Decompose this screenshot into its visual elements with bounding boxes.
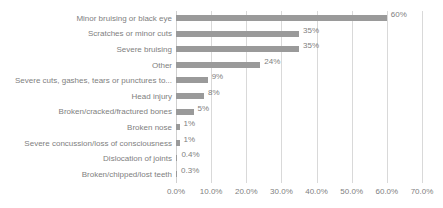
category-label: Broken/cracked/fractured bones [59,108,172,116]
category-label: Minor bruising or black eye [76,15,172,23]
value-axis-labels: 0.0%10.0%20.0%30.0%40.0%50.0%60.0%70.0% [176,187,422,201]
category-axis-labels: Minor bruising or black eyeScratches or … [0,11,172,183]
bar-row: 1% [176,120,422,136]
category-label-row: Dislocation of joints [0,151,172,167]
bar-row: 5% [176,105,422,121]
category-label-row: Broken/chipped/lost teeth [0,167,172,183]
bar-row: 1% [176,136,422,152]
category-label-row: Minor bruising or black eye [0,11,172,27]
x-axis-tick-label: 10.0% [200,187,223,196]
bar [176,109,194,115]
category-label: Severe concussion/loss of consciousness [24,140,172,148]
category-label: Dislocation of joints [103,155,172,163]
bar-value-label: 1% [184,119,196,128]
x-axis-tick-label: 60.0% [376,187,399,196]
bar-value-label: 35% [303,26,319,35]
bar [176,171,177,177]
bar-rows: 60%35%35%24%9%8%5%1%1%0.4%0.3% [176,11,422,183]
category-label-row: Other [0,58,172,74]
bar-value-label: 1% [184,135,196,144]
category-label-row: Severe concussion/loss of consciousness [0,136,172,152]
category-label: Broken/chipped/lost teeth [82,171,172,179]
category-label: Head injury [132,93,172,101]
bar-value-label: 9% [212,72,224,81]
category-label-row: Head injury [0,89,172,105]
bar-row: 35% [176,27,422,43]
x-axis-tick-label: 50.0% [340,187,363,196]
bar-value-label: 35% [303,41,319,50]
bar-value-label: 5% [198,104,210,113]
category-label-row: Broken nose [0,120,172,136]
bar-value-label: 0.3% [181,166,199,175]
bar-row: 8% [176,89,422,105]
bar-row: 0.4% [176,151,422,167]
bar-row: 0.3% [176,167,422,183]
category-label: Other [152,62,172,70]
category-label-row: Severe bruising [0,42,172,58]
bar [176,124,180,130]
bar [176,31,299,37]
category-label-row: Scratches or minor cuts [0,27,172,43]
x-axis-tick-label: 0.0% [167,187,185,196]
category-label-row: Broken/cracked/fractured bones [0,105,172,121]
bar-chart: Minor bruising or black eyeScratches or … [0,0,443,208]
x-axis-tick-label: 40.0% [305,187,328,196]
category-label: Severe bruising [116,46,172,54]
bar-row: 9% [176,73,422,89]
bar [176,77,208,83]
plot-area: 60%35%35%24%9%8%5%1%1%0.4%0.3% [176,11,422,183]
bar-value-label: 24% [264,57,280,66]
bar [176,46,299,52]
bar [176,15,387,21]
bar-value-label: 0.4% [181,150,199,159]
category-label: Broken nose [127,124,172,132]
category-label: Severe cuts, gashes, tears or punctures … [15,77,172,85]
bar [176,155,177,161]
bar-row: 60% [176,11,422,27]
bar [176,93,204,99]
category-label-row: Severe cuts, gashes, tears or punctures … [0,73,172,89]
bar-row: 35% [176,42,422,58]
x-axis-tick-label: 70.0% [411,187,434,196]
bar-row: 24% [176,58,422,74]
bar [176,62,260,68]
x-axis-tick-label: 20.0% [235,187,258,196]
category-label: Scratches or minor cuts [88,30,172,38]
x-axis-tick-label: 30.0% [270,187,293,196]
bar-value-label: 60% [391,10,407,19]
bar-value-label: 8% [208,88,220,97]
bar [176,140,180,146]
gridline [422,11,423,183]
